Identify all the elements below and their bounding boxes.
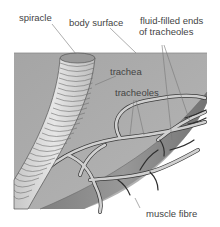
- label-muscle-fibre: muscle fibre: [146, 208, 197, 219]
- label-fluid-ends-line1: fluid-filled ends: [140, 15, 203, 26]
- label-body-surface: body surface: [69, 17, 123, 28]
- label-tracheoles: tracheoles: [115, 87, 159, 98]
- label-spiracle: spiracle: [19, 12, 52, 23]
- body-surface-leader: [110, 28, 136, 53]
- spiracle-opening: [60, 53, 95, 63]
- label-trachea: trachea: [110, 66, 142, 77]
- spiracle-leader: [52, 24, 76, 54]
- muscle-fibre-leader: [135, 198, 140, 208]
- label-fluid-ends-line2: of tracheoles: [139, 26, 193, 37]
